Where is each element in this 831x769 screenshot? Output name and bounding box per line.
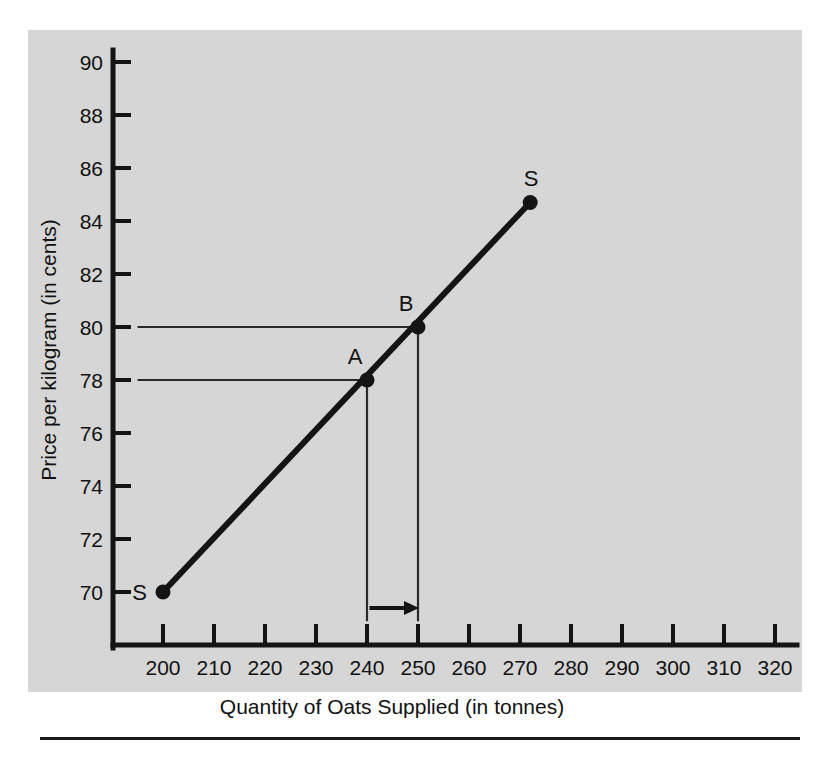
data-point-b-3 — [411, 320, 426, 335]
quantity-arrow-head-icon — [404, 601, 419, 615]
y-axis-title: Price per kilogram (in cents) — [37, 219, 60, 480]
x-axis-title: Quantity of Oats Supplied (in tonnes) — [220, 695, 564, 718]
x-tick-label-220: 220 — [247, 656, 282, 679]
y-tick-label-74: 74 — [80, 475, 104, 498]
quantity-arrow-group — [370, 601, 419, 615]
footer-divider-rule — [40, 737, 800, 740]
y-tick-label-80: 80 — [80, 316, 103, 339]
y-axis-tick-labels-group: 7072747678808284868890 — [80, 51, 104, 604]
y-tick-label-82: 82 — [80, 263, 103, 286]
x-tick-label-200: 200 — [145, 656, 180, 679]
x-tick-label-240: 240 — [349, 656, 384, 679]
y-tick-label-78: 78 — [80, 369, 103, 392]
point-label-a-2: A — [348, 344, 363, 369]
y-tick-label-84: 84 — [80, 210, 104, 233]
x-tick-label-280: 280 — [553, 656, 588, 679]
supply-curve-line — [163, 202, 530, 592]
x-axis-ticks-group — [163, 624, 775, 645]
chart-plot-area: SSAB 7072747678808284868890 200210220230… — [0, 0, 831, 769]
x-tick-label-320: 320 — [757, 656, 792, 679]
x-tick-label-290: 290 — [604, 656, 639, 679]
supply-curve-group — [163, 202, 530, 592]
data-point-s-0 — [156, 585, 171, 600]
x-tick-label-210: 210 — [196, 656, 231, 679]
x-tick-label-300: 300 — [655, 656, 690, 679]
point-label-s-0: S — [132, 580, 147, 605]
y-tick-label-70: 70 — [80, 581, 103, 604]
y-tick-label-88: 88 — [80, 104, 103, 127]
x-tick-label-250: 250 — [400, 656, 435, 679]
x-tick-label-270: 270 — [502, 656, 537, 679]
y-axis-ticks-group — [113, 62, 131, 592]
point-annotations-group: SSAB — [132, 166, 538, 605]
x-tick-label-260: 260 — [451, 656, 486, 679]
data-point-a-2 — [360, 373, 375, 388]
y-tick-label-72: 72 — [80, 528, 103, 551]
x-tick-label-310: 310 — [706, 656, 741, 679]
point-label-s-1: S — [524, 166, 539, 191]
data-point-s-1 — [523, 195, 538, 210]
y-tick-label-86: 86 — [80, 157, 103, 180]
x-tick-label-230: 230 — [298, 656, 333, 679]
y-tick-label-90: 90 — [80, 51, 103, 74]
x-axis-tick-labels-group: 200210220230240250260270280290300310320 — [145, 656, 792, 679]
figure-container: SSAB 7072747678808284868890 200210220230… — [0, 0, 831, 769]
y-tick-label-76: 76 — [80, 422, 103, 445]
point-label-b-3: B — [399, 291, 414, 316]
